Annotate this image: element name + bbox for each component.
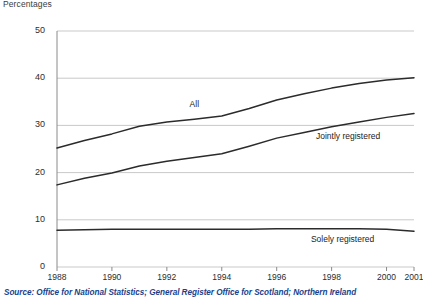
x-tick-label: 2001 — [405, 272, 423, 282]
series-label-solely-registered: Solely registered — [311, 234, 374, 244]
y-tick-label: 20 — [19, 167, 45, 177]
y-tick-label: 0 — [19, 261, 45, 271]
series-label-jointly-registered: Jointly registered — [316, 131, 380, 141]
x-tick-label: 2000 — [377, 272, 396, 282]
x-tick-label: 1990 — [102, 272, 121, 282]
y-tick-label: 50 — [19, 25, 45, 35]
x-tick-label: 1994 — [212, 272, 231, 282]
x-tick-label: 1998 — [322, 272, 341, 282]
source-note: Source: Office for National Statistics; … — [4, 288, 356, 297]
y-tick-label: 30 — [19, 119, 45, 129]
x-tick-label: 1996 — [267, 272, 286, 282]
series-label-all: All — [190, 99, 199, 109]
data-series-group — [57, 78, 414, 231]
x-tick-label: 1988 — [48, 272, 67, 282]
y-tick-label: 10 — [19, 214, 45, 224]
x-tick-label: 1992 — [157, 272, 176, 282]
y-tick-label: 40 — [19, 72, 45, 82]
gridlines-group — [57, 31, 414, 267]
series-line-2 — [57, 229, 414, 231]
x-axis-ticks — [57, 267, 414, 271]
series-line-1 — [57, 114, 414, 185]
